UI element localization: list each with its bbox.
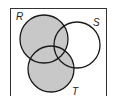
- venn-diagram: R S T: [0, 0, 115, 96]
- set-r-label: R: [16, 11, 23, 22]
- set-s-label: S: [93, 17, 100, 28]
- set-t-label: T: [72, 86, 79, 96]
